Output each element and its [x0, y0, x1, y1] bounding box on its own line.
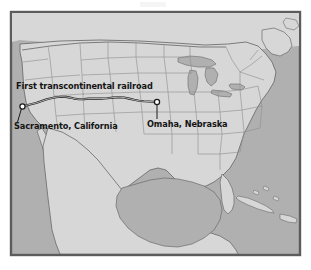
- label-sacramento-california: Sacramento, California: [14, 121, 118, 131]
- label-omaha-nebraska: Omaha, Nebraska: [147, 119, 228, 129]
- label-first-transcontinental-railroad: First transcontinental railroad: [16, 81, 153, 91]
- map-canvas: First transcontinental railroad Sacramen…: [0, 0, 311, 270]
- map-figure: First transcontinental railroad Sacramen…: [0, 0, 311, 270]
- city-marker-sacramento[interactable]: [20, 104, 25, 109]
- city-marker-omaha[interactable]: [154, 99, 159, 104]
- scan-artifact: [140, 2, 166, 7]
